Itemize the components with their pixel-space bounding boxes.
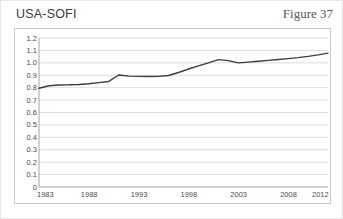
y-axis-tick-label: 0.1 xyxy=(15,170,37,179)
figure-number-label: Figure 37 xyxy=(283,6,333,22)
y-axis-tick-label: 0.3 xyxy=(15,145,37,154)
line-chart-svg xyxy=(15,29,330,203)
x-axis-tick-label: 1993 xyxy=(131,190,148,199)
y-axis-tick-label: 0 xyxy=(15,183,37,192)
x-axis-tick-label: 2012 xyxy=(312,190,329,199)
figure-card: USA-SOFI Figure 37 00.10.20.30.40.50.60.… xyxy=(0,0,343,219)
y-axis-tick-label: 0.2 xyxy=(15,158,37,167)
x-axis-tick-label: 1983 xyxy=(37,190,54,199)
y-axis-tick-label: 0.5 xyxy=(15,120,37,129)
x-axis-tick-label: 1998 xyxy=(180,190,197,199)
y-axis-tick-label: 0.8 xyxy=(15,83,37,92)
data-series-line xyxy=(39,53,328,88)
x-axis-tick-label: 1988 xyxy=(81,190,98,199)
y-axis-tick-label: 0.6 xyxy=(15,108,37,117)
y-axis-tick-label: 0.7 xyxy=(15,96,37,105)
chart-plot-area: 00.10.20.30.40.50.60.70.80.91.01.11.2198… xyxy=(14,28,331,204)
y-axis-tick-label: 0.9 xyxy=(15,71,37,80)
y-axis-tick-label: 0.4 xyxy=(15,133,37,142)
y-axis-tick-label: 1.0 xyxy=(15,58,37,67)
figure-header: USA-SOFI Figure 37 xyxy=(0,0,343,30)
y-axis-tick-label: 1.2 xyxy=(15,34,37,43)
y-axis-tick-label: 1.1 xyxy=(15,46,37,55)
page-title: USA-SOFI xyxy=(16,7,77,21)
x-axis-tick-label: 2003 xyxy=(230,190,247,199)
x-axis-tick-label: 2008 xyxy=(280,190,297,199)
